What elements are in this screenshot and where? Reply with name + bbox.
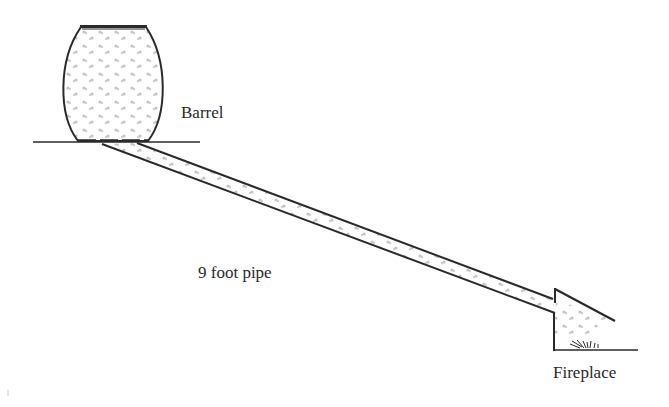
fire-grass-icon xyxy=(570,340,598,348)
diagram-canvas xyxy=(0,0,669,407)
barrel-label: Barrel xyxy=(181,104,223,121)
barrel-body xyxy=(63,27,162,141)
pipe-bottom-edge xyxy=(102,144,555,313)
pipe xyxy=(102,143,555,313)
fireplace xyxy=(554,288,638,351)
pipe-label: 9 foot pipe xyxy=(198,264,272,281)
barrel xyxy=(63,26,162,141)
fireplace-interior xyxy=(555,300,610,336)
fireplace-label: Fireplace xyxy=(553,364,616,381)
